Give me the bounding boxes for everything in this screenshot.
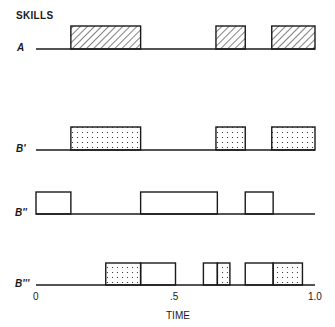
skill-interval-dots [272, 127, 315, 150]
timeline-row [36, 263, 315, 285]
timeline-row [36, 127, 315, 150]
skill-interval-none [203, 263, 217, 285]
skill-interval-dots [217, 263, 230, 285]
skill-interval-none [36, 192, 71, 214]
skill-interval-none [141, 192, 218, 214]
skill-interval-none [245, 192, 273, 214]
skills-timeline-diagram [0, 0, 335, 327]
skill-interval-hatch [216, 26, 245, 49]
skill-interval-hatch [71, 26, 141, 49]
timeline-row [36, 26, 315, 49]
timeline-row [36, 192, 315, 214]
skill-interval-dots [273, 263, 302, 285]
skill-interval-none [141, 263, 176, 285]
skill-interval-dots [106, 263, 141, 285]
skill-interval-none [245, 263, 273, 285]
skill-interval-dots [216, 127, 245, 150]
skill-interval-hatch [272, 26, 315, 49]
skill-interval-dots [71, 127, 141, 150]
